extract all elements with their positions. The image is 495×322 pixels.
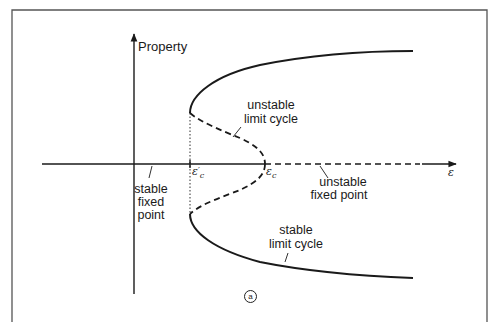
x-axis-label: ε <box>448 166 454 179</box>
pointer-unstable-limit-cycle <box>233 127 241 137</box>
subscript-c: c <box>200 171 204 180</box>
panel-label: a <box>244 290 257 303</box>
tick-label-eps-c-prime: ε′c <box>192 165 204 180</box>
diagram-canvas <box>0 0 495 322</box>
label-line: limit cycle <box>243 113 299 126</box>
tick-label-eps-c: εc <box>266 165 276 180</box>
label-stable-limit-cycle: stable limit cycle <box>266 224 326 251</box>
y-axis-label: Property <box>138 40 187 53</box>
frame-border <box>12 10 487 322</box>
label-unstable-limit-cycle: unstable limit cycle <box>243 99 299 126</box>
stable-limit-cycle-upper <box>190 51 413 113</box>
label-line: unstable <box>243 99 299 112</box>
label-line: stable <box>266 224 326 237</box>
label-stable-fixed-point: stable fixed point <box>132 183 170 222</box>
label-line: point <box>132 209 170 222</box>
label-line: limit cycle <box>266 238 326 251</box>
label-unstable-fixed-point: unstable fixed point <box>304 176 374 202</box>
pointer-stable-limit-cycle <box>285 253 288 262</box>
label-line: fixed point <box>304 189 374 202</box>
bifurcation-diagram: Property ε ε′c εc unstable limit cycle s… <box>0 0 495 322</box>
subscript-c: c <box>272 171 276 180</box>
pointer-stable-fixed-point <box>149 166 152 178</box>
